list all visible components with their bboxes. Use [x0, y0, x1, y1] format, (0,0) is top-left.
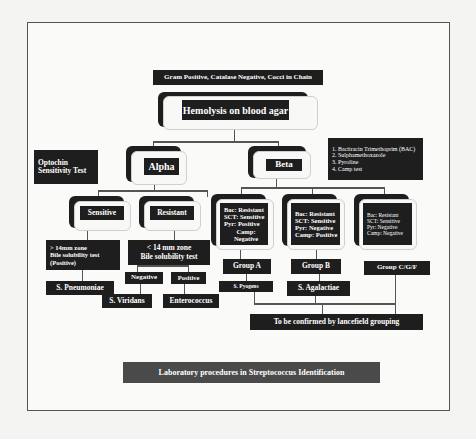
- enterococcus-node: Enterococcus: [163, 294, 219, 308]
- resistant-node: Resistant: [150, 206, 194, 220]
- connector: [395, 275, 396, 315]
- s-agalactiae-node: S. Agalactiae: [287, 281, 350, 296]
- positive-node: Positive: [171, 272, 206, 284]
- test-result: Pyr: Negative: [295, 224, 333, 231]
- test-result: Bac: Resistant: [224, 206, 264, 213]
- connector: [137, 265, 189, 267]
- group-cgf-tests: Bac: Resistant SCT: Sensitive Pyr: Negat…: [363, 203, 412, 245]
- test-result: Camp: Positive: [295, 231, 337, 238]
- alpha-node: Alpha: [144, 158, 179, 175]
- connector: [241, 187, 385, 189]
- figure-caption: Laboratory procedures in Streptococcus I…: [123, 362, 380, 383]
- optochin-line: Sensitivity Test: [38, 167, 86, 175]
- tests-list-item: 4. Camp test: [332, 166, 362, 173]
- tests-list-item: 1. Bacitracin Trimethoprim (BAC): [332, 146, 415, 153]
- test-result: SCT: Sensitive: [224, 213, 265, 220]
- connector: [276, 179, 277, 187]
- tests-list: 1. Bacitracin Trimethoprim (BAC) 2. Sulp…: [328, 138, 423, 180]
- tests-list-item: 2. Sulphamethoxazole: [332, 152, 385, 159]
- group-b-tests: Bac: Resistant SCT: Sensitive Pyr: Negat…: [291, 203, 340, 245]
- test-result: Pyr: Positive: [224, 220, 260, 227]
- resistant-result-line: Bile solubility test: [140, 253, 197, 261]
- connector: [246, 274, 247, 281]
- connector: [153, 141, 279, 143]
- group-a-node: Group A: [223, 259, 271, 274]
- test-result: Camp: Negative: [367, 230, 403, 236]
- s-viridans-node: S. Viridans: [102, 294, 152, 308]
- optochin-node: Optochin Sensitivity Test: [34, 150, 98, 184]
- sensitive-node: Sensitive: [80, 206, 124, 220]
- s-pyogens-node: S. Pyogens: [219, 281, 273, 292]
- confirm-node: To be confirmed by lancefield grouping: [250, 314, 423, 330]
- sensitive-result-line: Bile solubility test: [50, 251, 99, 258]
- s-pneumoniae-node: S. Pneumoniae: [46, 281, 114, 295]
- connector: [207, 190, 208, 197]
- sensitive-result-node: > 14mm zone Bile solubility test (Positi…: [46, 240, 120, 270]
- negative-node: Negative: [125, 272, 163, 284]
- group-b-node: Group B: [291, 259, 341, 274]
- beta-node: Beta: [266, 159, 302, 171]
- connector: [98, 190, 208, 192]
- group-cgf-node: Group C/G/F: [364, 261, 430, 275]
- test-result: Bac: Resistant: [295, 210, 335, 217]
- test-result: Camp: Negative: [224, 228, 268, 242]
- connector: [315, 296, 316, 304]
- resistant-result-node: < 14 mm zone Bile solubility test: [128, 240, 210, 265]
- sensitive-result-line: > 14mm zone: [50, 244, 87, 251]
- connector: [254, 303, 395, 305]
- tests-list-item: 3. Pyroline: [332, 159, 358, 166]
- test-result: SCT: Sensitive: [295, 217, 336, 224]
- hemolysis-node: Hemolysis on blood agar: [182, 100, 289, 120]
- sensitive-result-line: (Positive): [50, 259, 76, 266]
- root-node: Gram Positive, Catalase Negative, Cocci …: [153, 70, 323, 85]
- group-a-tests: Bac: Resistant SCT: Sensitive Pyr: Posit…: [220, 203, 268, 245]
